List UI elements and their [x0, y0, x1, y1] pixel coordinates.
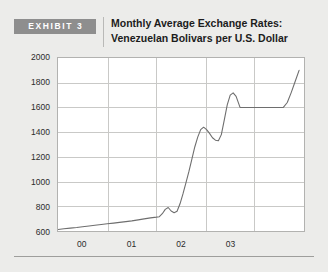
y-tick-label-1000: 1000: [6, 178, 50, 187]
figure-header: EXHIBIT 3 Monthly Average Exchange Rates…: [0, 8, 328, 42]
page-title: Monthly Average Exchange Rates: Venezuel…: [111, 16, 325, 45]
x-tick-label-03: 03: [211, 240, 251, 249]
x-tick-label-00: 00: [62, 240, 102, 249]
title-line-1: Monthly Average Exchange Rates:: [111, 16, 325, 31]
exhibit-badge-label: EXHIBIT 3: [27, 22, 84, 31]
plot-frame: [57, 57, 305, 232]
title-line-2: Venezuelan Bolivars per U.S. Dollar: [111, 31, 325, 46]
y-tick-label-800: 800: [6, 203, 50, 212]
x-tick-label-02: 02: [161, 240, 201, 249]
footer-rule: [14, 256, 314, 257]
chart-area: 200018001600140012001000800600 00010203: [0, 44, 328, 244]
y-tick-label-1200: 1200: [6, 153, 50, 162]
y-tick-label-1400: 1400: [6, 128, 50, 137]
horizontal-gridlines: [58, 83, 304, 207]
exhibit-figure: EXHIBIT 3 Monthly Average Exchange Rates…: [0, 0, 328, 272]
exhibit-badge: EXHIBIT 3: [14, 19, 96, 34]
line-chart-svg: [58, 58, 304, 231]
title-divider: [103, 17, 104, 47]
y-tick-label-2000: 2000: [6, 53, 50, 62]
series-line-bolivars-per-dollar: [58, 70, 299, 229]
y-tick-label-1800: 1800: [6, 78, 50, 87]
y-tick-label-600: 600: [6, 228, 50, 237]
x-tick-label-01: 01: [111, 240, 151, 249]
y-tick-label-1600: 1600: [6, 103, 50, 112]
vertical-gridlines: [108, 58, 255, 231]
